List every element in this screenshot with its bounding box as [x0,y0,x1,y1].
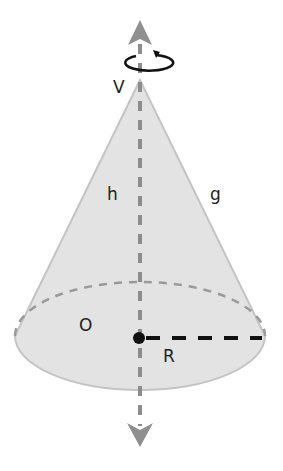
label-vertex: V [113,77,125,97]
label-generatrix: g [210,184,221,204]
label-base-center: O [79,315,92,335]
cone-diagram: V h g O R [0,0,283,471]
axis-arrow-down-icon [127,423,153,447]
label-radius: R [163,346,175,366]
rotation-arrow-icon [125,50,173,71]
label-height: h [107,184,118,204]
center-point [133,332,145,344]
axis-arrow-up-icon [128,20,152,45]
